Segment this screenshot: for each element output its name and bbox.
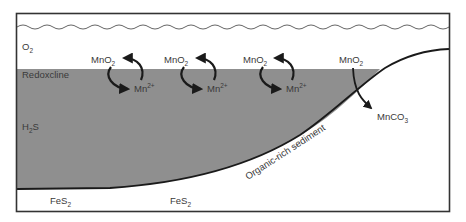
fes2-label: FeS2 <box>50 195 71 208</box>
redoxcline-label: Redoxcline <box>22 69 69 80</box>
fes2-label: FeS2 <box>170 195 191 208</box>
mno2-label: MnO2 <box>164 54 189 67</box>
mno2-label: MnO2 <box>91 54 116 67</box>
oxic-zone-label: O2 <box>22 41 33 54</box>
redox-diagram: O2 Redoxcline H2S MnO2 Mn2+ MnO2 Mn2+ Mn… <box>0 0 466 222</box>
water-surface-wave <box>17 25 449 29</box>
mno2-label: MnO2 <box>243 54 268 67</box>
mnco3-label: MnCO3 <box>377 111 408 124</box>
burial-mno2-label: MnO2 <box>339 54 364 67</box>
